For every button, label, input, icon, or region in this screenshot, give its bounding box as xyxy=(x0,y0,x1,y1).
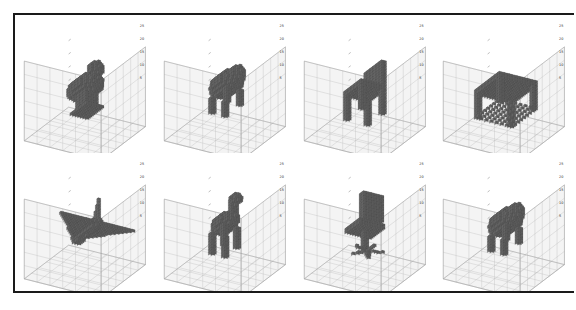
z-axis-tick-labels: 25 20 15 10 5 xyxy=(280,25,292,81)
tick-label: 10 xyxy=(419,202,423,206)
tick-label: 25 xyxy=(280,25,284,29)
voxel-panel-airplane: 25 20 15 10 5 xyxy=(15,153,155,291)
tick-label: 25 xyxy=(140,163,144,167)
tick-label: 15 xyxy=(559,189,563,193)
tick-label: 5 xyxy=(419,77,421,81)
z-axis-tick-labels: 25 20 15 10 5 xyxy=(419,25,431,81)
tick-label: 20 xyxy=(419,176,423,180)
voxel-plot-table xyxy=(434,15,574,153)
tick-label: 20 xyxy=(280,176,284,180)
tick-label: 15 xyxy=(140,189,144,193)
z-axis-tick-labels: 25 20 15 10 5 xyxy=(559,25,571,81)
tick-label: 5 xyxy=(140,215,142,219)
z-axis-tick-labels: 25 20 15 10 5 xyxy=(559,163,571,219)
voxel-plot-airplane xyxy=(15,153,155,291)
tick-label: 15 xyxy=(419,189,423,193)
tick-label: 20 xyxy=(140,38,144,42)
voxel-plot-bird xyxy=(15,15,155,153)
tick-label: 10 xyxy=(559,202,563,206)
tick-label: 5 xyxy=(280,77,282,81)
tick-label: 20 xyxy=(140,176,144,180)
z-axis-tick-labels: 25 20 15 10 5 xyxy=(140,25,152,81)
panel-grid: 25 20 15 10 5 25 20 15 10 5 25 20 15 xyxy=(15,15,574,291)
figure-frame: 25 20 15 10 5 25 20 15 10 5 25 20 15 xyxy=(13,13,574,293)
z-axis-tick-labels: 25 20 15 10 5 xyxy=(280,163,292,219)
tick-label: 20 xyxy=(559,176,563,180)
voxel-panel-bird: 25 20 15 10 5 xyxy=(15,15,155,153)
voxel-plot-cow-2 xyxy=(434,153,574,291)
tick-label: 10 xyxy=(140,202,144,206)
tick-label: 20 xyxy=(419,38,423,42)
z-axis-tick-labels: 25 20 15 10 5 xyxy=(140,163,152,219)
tick-label: 10 xyxy=(140,64,144,68)
tick-label: 20 xyxy=(559,38,563,42)
voxel-panel-cow-top: 25 20 15 10 5 xyxy=(155,15,295,153)
tick-label: 15 xyxy=(280,189,284,193)
tick-label: 5 xyxy=(559,215,561,219)
voxel-panel-office-chair: 25 20 15 10 5 xyxy=(295,153,435,291)
tick-label: 5 xyxy=(419,215,421,219)
z-axis-tick-labels: 25 20 15 10 5 xyxy=(419,163,431,219)
tick-label: 25 xyxy=(140,25,144,29)
voxel-panel-chair: 25 20 15 10 5 xyxy=(295,15,435,153)
tick-label: 10 xyxy=(559,64,563,68)
tick-label: 15 xyxy=(559,51,563,55)
tick-label: 25 xyxy=(419,163,423,167)
tick-label: 15 xyxy=(280,51,284,55)
tick-label: 25 xyxy=(280,163,284,167)
tick-label: 5 xyxy=(140,77,142,81)
tick-label: 10 xyxy=(280,64,284,68)
tick-label: 5 xyxy=(280,215,282,219)
voxel-plot-chair xyxy=(295,15,435,153)
tick-label: 15 xyxy=(140,51,144,55)
tick-label: 25 xyxy=(419,25,423,29)
voxel-panel-deer: 25 20 15 10 5 xyxy=(155,153,295,291)
voxel-panel-cow-bottom: 25 20 15 10 5 xyxy=(434,153,574,291)
voxel-plot-office-chair xyxy=(295,153,435,291)
tick-label: 25 xyxy=(559,25,563,29)
tick-label: 10 xyxy=(280,202,284,206)
voxel-panel-table: 25 20 15 10 5 xyxy=(434,15,574,153)
tick-label: 15 xyxy=(419,51,423,55)
tick-label: 5 xyxy=(559,77,561,81)
tick-label: 20 xyxy=(280,38,284,42)
tick-label: 25 xyxy=(559,163,563,167)
voxel-plot-cow xyxy=(155,15,295,153)
voxel-plot-deer xyxy=(155,153,295,291)
tick-label: 10 xyxy=(419,64,423,68)
